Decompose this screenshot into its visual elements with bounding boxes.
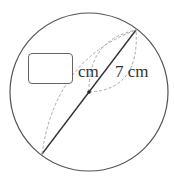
radius-label: 7 cm <box>115 63 149 80</box>
center-point <box>87 90 91 94</box>
answer-unit-label: cm <box>78 63 99 80</box>
circle-diagram <box>0 0 174 184</box>
answer-box[interactable] <box>28 53 73 84</box>
